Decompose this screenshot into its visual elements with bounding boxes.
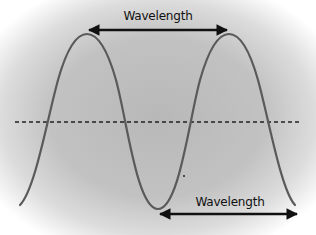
top-wavelength-label: Wavelength — [123, 9, 192, 23]
stray-dot — [183, 175, 185, 177]
wavelength-diagram: Wavelength Wavelength — [0, 0, 316, 235]
wave-graphic — [0, 0, 316, 235]
bottom-wavelength-label: Wavelength — [195, 195, 264, 209]
